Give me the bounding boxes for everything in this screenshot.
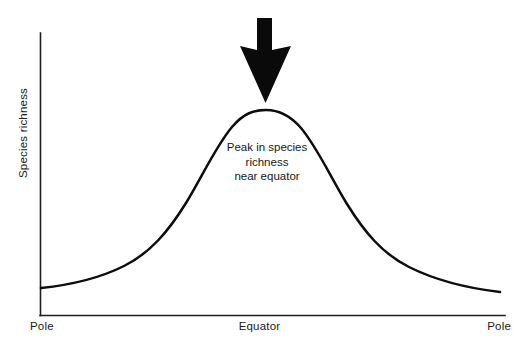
- species-richness-curve: [41, 110, 500, 292]
- x-tick-label-equator: Equator: [0, 320, 519, 332]
- species-richness-figure: Species richness Pole Equator Pole Peak …: [0, 0, 519, 350]
- y-axis-label-text: Species richness: [17, 88, 29, 178]
- peak-arrow-icon: [240, 18, 291, 103]
- x-tick-label-pole-right: Pole: [487, 320, 511, 332]
- peak-annotation: Peak in species richness near equator: [197, 140, 337, 184]
- peak-annotation-line-2: richness: [197, 155, 337, 170]
- peak-annotation-line-3: near equator: [197, 169, 337, 184]
- figure-caption: [8, 341, 468, 350]
- y-axis-label: Species richness: [13, 53, 33, 213]
- peak-annotation-line-1: Peak in species: [197, 140, 337, 155]
